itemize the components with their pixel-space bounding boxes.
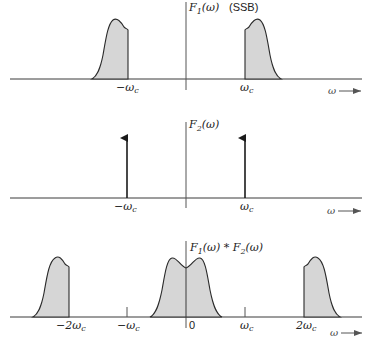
- conv-label-wc: ωc: [240, 319, 254, 333]
- panel-f1: F1(ω) (SSB) −ωc ωc ω: [10, 1, 362, 96]
- f1-omega-label: ω: [328, 85, 336, 96]
- panel-convolution: F1(ω) * F2(ω) −2ωc −ωc 0 ωc 2ωc ω: [10, 241, 362, 338]
- conv-label-2wc: 2ωc: [295, 319, 317, 333]
- f2-tick-wc: ωc: [240, 200, 254, 214]
- f1-right-sideband: [245, 19, 281, 79]
- conv-right-band: [304, 257, 340, 317]
- f2-omega-label: ω: [327, 205, 335, 216]
- conv-label-neg-wc: −ωc: [117, 319, 140, 333]
- conv-label-neg-2wc: −2ωc: [56, 319, 86, 333]
- f1-tick-neg-wc: −ωc: [116, 81, 139, 95]
- conv-left-band: [33, 257, 69, 317]
- ssb-annotation: (SSB): [229, 1, 258, 13]
- f1-left-sideband: [92, 19, 128, 79]
- conv-omega-label: ω: [330, 327, 338, 338]
- f1-tick-wc: ωc: [240, 81, 254, 95]
- conv-title: F1(ω) * F2(ω): [189, 241, 263, 256]
- f2-tick-neg-wc: −ωc: [114, 200, 137, 214]
- panel-f2: F2(ω) −ωc ωc ω: [10, 118, 362, 216]
- f2-title: F2(ω): [188, 118, 219, 133]
- f1-title: F1(ω): [188, 1, 219, 16]
- spectrum-diagram: F1(ω) (SSB) −ωc ωc ω F2(ω) −ωc ωc ω: [0, 0, 372, 340]
- conv-label-zero: 0: [189, 319, 195, 331]
